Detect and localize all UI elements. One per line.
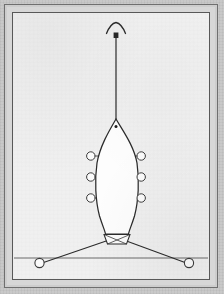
drawing-canvas [13, 13, 209, 279]
oarlock-right-1 [137, 152, 145, 160]
buoy-left [35, 258, 44, 267]
oarlock-left-3 [87, 194, 95, 202]
oarlock-left-2 [87, 173, 95, 181]
direction-arrow-icon [107, 23, 126, 34]
mooring-line-right [121, 239, 185, 263]
mooring-line-left [44, 239, 113, 263]
buoy-right [184, 258, 193, 267]
oarlock-left-1 [87, 152, 95, 160]
bow-marker-dot [115, 125, 118, 128]
tow-line-fitting [114, 33, 119, 39]
boat-hull [96, 119, 139, 234]
diagram-screenshot [0, 0, 224, 294]
oarlock-right-2 [137, 173, 145, 181]
oarlock-right-3 [137, 194, 145, 202]
line-drawing-svg [13, 13, 209, 279]
